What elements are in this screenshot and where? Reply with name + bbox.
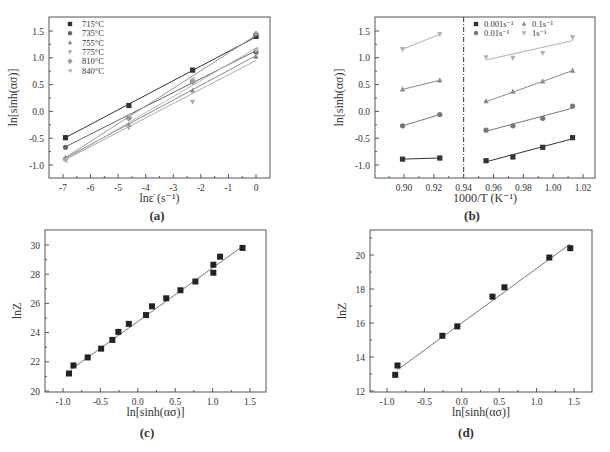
y-tick-label: 12 (356, 387, 366, 397)
square-marker-icon (126, 321, 132, 327)
series-0.1s⁻¹ (400, 68, 575, 104)
x-tick-label: 1.0 (207, 397, 219, 407)
circle-marker-icon (474, 31, 478, 35)
square-marker-icon (210, 262, 216, 268)
legend-label: 0.01s⁻¹ (484, 28, 510, 38)
square-marker-icon (394, 363, 400, 369)
legend-label: 840°C (82, 66, 104, 76)
triangle-down-marker-icon (540, 51, 545, 56)
y-tick-label: 0.0 (358, 107, 370, 117)
square-marker-icon (474, 22, 478, 26)
y-tick-label: -0.5 (355, 134, 370, 144)
x-tick-label: -1.0 (379, 397, 394, 407)
square-marker-icon (143, 312, 149, 318)
circle-marker-icon (68, 31, 72, 35)
circle-marker-icon (437, 112, 442, 117)
square-marker-icon (546, 255, 552, 261)
y-axis-title: lnZ (10, 303, 24, 320)
triangle-down-marker-icon (190, 100, 195, 105)
x-tick-label: -2 (197, 183, 205, 193)
circle-marker-icon (63, 145, 68, 150)
y-tick-label: -0.5 (29, 134, 44, 144)
legend: 715°C735°C755°C775°C810°C840°C (67, 19, 104, 76)
square-marker-icon (149, 303, 155, 309)
fit-line-left (403, 34, 440, 49)
y-tick-label: 24 (31, 328, 41, 338)
x-tick-label: -0.5 (93, 397, 108, 407)
fit-line-left (403, 115, 440, 126)
y-tick-label: 28 (31, 270, 41, 280)
square-marker-icon (392, 372, 398, 378)
y-tick-label: 1.0 (32, 53, 44, 63)
triangle-up-marker-icon (570, 68, 575, 73)
fit-line (397, 244, 570, 370)
triangle-down-marker-icon (510, 56, 515, 61)
y-tick-label: 1.5 (32, 27, 44, 37)
series-0.01s⁻¹ (400, 103, 575, 132)
x-axis-title: ln[sinh(ασ)] (452, 405, 510, 419)
x-tick-label: 0.98 (515, 183, 532, 193)
x-tick-label: 1.5 (568, 397, 580, 407)
square-marker-icon (63, 135, 68, 140)
triangle-down-marker-icon (522, 31, 526, 35)
x-tick-label: 1.5 (244, 397, 256, 407)
series-points (392, 244, 573, 378)
x-tick-label: 0.92 (426, 183, 443, 193)
square-marker-icon (115, 329, 121, 335)
x-tick-label: -5 (114, 183, 122, 193)
y-tick-label: 14 (356, 353, 366, 363)
x-tick-label: 1.00 (545, 183, 562, 193)
fit-line-right (486, 108, 573, 131)
circle-marker-icon (510, 123, 515, 128)
square-marker-icon (570, 135, 575, 140)
y-tick-label: 30 (31, 241, 41, 251)
panel-caption: (a) (149, 208, 164, 223)
diamond-marker-icon (67, 59, 72, 64)
y-tick-label: 22 (31, 357, 41, 367)
panel-a-strain-rate-plot: -7-6-5-4-3-2-10-1.0-0.50.00.51.01.5lnε̇ … (6, 17, 270, 223)
y-tick-label: 0.5 (358, 80, 370, 90)
fit-line-right (486, 41, 573, 60)
plot-frame (45, 230, 266, 392)
square-marker-icon (190, 68, 195, 73)
panel-caption: (b) (464, 208, 480, 223)
square-marker-icon (400, 157, 405, 162)
y-tick-label: 26 (31, 299, 41, 309)
square-marker-icon (66, 370, 72, 376)
square-marker-icon (163, 295, 169, 301)
legend: 0.001s⁻¹0.01s⁻¹0.1s⁻¹1s⁻¹ (474, 19, 554, 38)
square-marker-icon (68, 22, 72, 26)
triangle-up-marker-icon (522, 21, 526, 25)
square-marker-icon (98, 346, 104, 352)
square-marker-icon (109, 337, 115, 343)
circle-marker-icon (483, 128, 488, 133)
triangle-down-marker-icon (400, 47, 405, 52)
y-axis-title: ln[sinh(ασ)] (6, 68, 20, 126)
x-tick-label: -1 (224, 183, 232, 193)
square-marker-icon (483, 158, 488, 163)
square-marker-icon (217, 254, 223, 260)
square-marker-icon (177, 287, 183, 293)
panel-caption: (c) (140, 425, 154, 440)
panel-c-lnz-plot: -1.0-0.50.00.51.01.5202224262830ln[sinh(… (10, 230, 266, 440)
square-marker-icon (510, 154, 515, 159)
square-marker-icon (454, 323, 460, 329)
y-tick-label: 0.0 (32, 107, 44, 117)
x-axis-title: lnε̇ (s⁻¹) (140, 191, 180, 205)
y-axis-title: ln[sinh(ασ)] (332, 68, 346, 126)
triangle-up-marker-icon (437, 77, 442, 82)
panel-caption: (d) (458, 425, 474, 440)
square-marker-icon (210, 270, 216, 276)
panel-d-lnz-plot: -1.0-0.50.00.51.01.51214161820ln[sinh(ασ… (335, 230, 592, 440)
y-tick-label: 18 (356, 285, 366, 295)
triangle-left-marker-icon (67, 68, 71, 72)
square-marker-icon (501, 284, 507, 290)
y-tick-label: -1.0 (355, 161, 370, 171)
triangle-up-marker-icon (68, 40, 72, 44)
square-marker-icon (240, 245, 246, 251)
y-tick-label: -1.0 (29, 161, 44, 171)
square-marker-icon (192, 279, 198, 285)
x-axis-title: 1000/T (K⁻¹) (453, 191, 517, 205)
square-marker-icon (567, 245, 573, 251)
x-tick-label: -6 (87, 183, 95, 193)
